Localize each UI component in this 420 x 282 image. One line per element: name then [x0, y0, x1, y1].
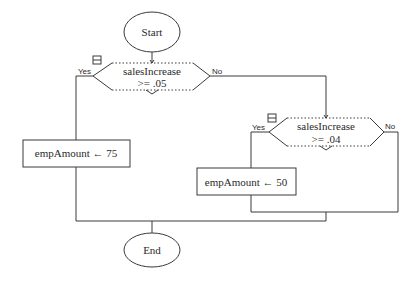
- decision1-right-point: [193, 63, 210, 90]
- decision1-left-point: [93, 63, 112, 90]
- start-label: Start: [142, 26, 163, 38]
- collapse-icon[interactable]: [93, 56, 101, 64]
- decision2-condition-line2: >= .04: [312, 133, 341, 145]
- decision1-yes-label: Yes: [78, 67, 91, 76]
- decision2-yes-label: Yes: [252, 123, 265, 132]
- connector-no1: [210, 76, 326, 118]
- connector-yes1: [76, 76, 93, 140]
- decision2[interactable]: salesIncrease >= .04: [269, 118, 384, 150]
- end-terminal[interactable]: End: [124, 233, 180, 267]
- process2[interactable]: empAmount ← 50: [197, 168, 296, 195]
- process1-label: empAmount ← 75: [35, 147, 118, 159]
- flowchart: Start salesIncrease >= .05 Yes No empAmo…: [0, 0, 420, 282]
- decision2-right-point: [370, 118, 384, 146]
- decision2-no-label: No: [385, 122, 396, 131]
- start-terminal[interactable]: Start: [124, 12, 180, 52]
- decision2-condition-line1: salesIncrease: [297, 120, 355, 132]
- decision1-no-label: No: [212, 67, 223, 76]
- decision1-condition-line1: salesIncrease: [123, 65, 181, 77]
- decision1-bottom-chevron: [146, 90, 158, 94]
- process2-label: empAmount ← 50: [205, 176, 288, 188]
- collapse-icon[interactable]: [268, 114, 276, 122]
- connector-no2: [384, 132, 398, 212]
- connector-yes2: [251, 132, 269, 168]
- end-label: End: [143, 244, 161, 256]
- decision1[interactable]: salesIncrease >= .05: [93, 63, 210, 94]
- process1[interactable]: empAmount ← 75: [23, 140, 130, 167]
- decision1-condition-line2: >= .05: [138, 77, 167, 89]
- decision2-bottom-chevron: [320, 146, 332, 150]
